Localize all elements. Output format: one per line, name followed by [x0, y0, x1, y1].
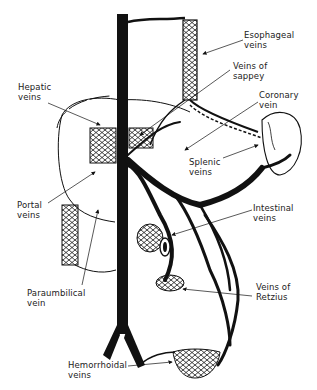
- label-line: sappey: [233, 71, 267, 81]
- portal-plexus: [62, 205, 78, 265]
- label-line: Veins of: [233, 61, 267, 71]
- vena-cava: [103, 14, 145, 368]
- label-paraumbilical-vein: Paraumbilical vein: [27, 288, 85, 308]
- label-line: Veins of: [256, 282, 290, 292]
- hemorrhoidal-plexus: [173, 349, 220, 378]
- label-hepatic-veins: Hepatic veins: [18, 82, 51, 102]
- label-splenic-veins: Splenic veins: [189, 157, 221, 177]
- label-line: Splenic: [189, 157, 221, 167]
- label-line: Portal: [17, 200, 42, 210]
- label-line: Hemorrhoidal: [68, 360, 127, 370]
- label-line: veins: [18, 92, 51, 102]
- label-line: vein: [259, 100, 299, 110]
- retzius-plexus: [156, 275, 184, 291]
- label-line: Esophageal: [244, 30, 294, 40]
- label-esophageal-veins: Esophageal veins: [244, 30, 294, 50]
- label-line: Paraumbilical: [27, 288, 85, 298]
- label-line: vein: [27, 298, 85, 308]
- label-intestinal-veins: Intestinal veins: [253, 203, 294, 223]
- label-line: veins: [253, 213, 294, 223]
- label-line: Retzius: [256, 292, 290, 302]
- label-veins-of-sappey: Veins of sappey: [233, 61, 267, 81]
- label-line: Coronary: [259, 90, 299, 100]
- hepatic-plexus-right: [129, 128, 153, 148]
- esophageal-plexus: [128, 18, 262, 145]
- label-hemorrhoidal-veins: Hemorrhoidal veins: [68, 360, 127, 380]
- label-line: veins: [17, 210, 42, 220]
- label-line: veins: [244, 40, 294, 50]
- label-line: Hepatic: [18, 82, 51, 92]
- portal-venous-diagram: [0, 0, 317, 390]
- label-line: Intestinal: [253, 203, 294, 213]
- label-coronary-vein: Coronary vein: [259, 90, 299, 110]
- label-portal-veins: Portal veins: [17, 200, 42, 220]
- paraumbilical-vein: [75, 265, 116, 272]
- label-veins-of-retzius: Veins of Retzius: [256, 282, 290, 302]
- label-line: veins: [189, 167, 221, 177]
- hepatic-plexus-left: [90, 128, 116, 163]
- label-line: veins: [68, 370, 127, 380]
